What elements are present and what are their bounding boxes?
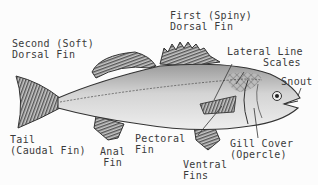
label-line: Anal: [100, 146, 125, 157]
label-line: Dorsal Fin: [170, 21, 252, 32]
label-anal-fin: Anal Fin: [100, 146, 125, 168]
label-line: Dorsal Fin: [12, 49, 94, 60]
label-second-dorsal-fin: Second (Soft) Dorsal Fin: [12, 38, 94, 60]
label-line: Second (Soft): [12, 38, 94, 49]
label-line: Fins: [183, 170, 227, 181]
label-line: Gill Cover: [230, 138, 293, 149]
label-line: Fin: [100, 157, 125, 168]
label-first-dorsal-fin: First (Spiny) Dorsal Fin: [170, 10, 252, 32]
label-ventral-fins: Ventral Fins: [183, 159, 227, 181]
label-line: Pectoral: [135, 133, 186, 144]
fish-anatomy-diagram: First (Spiny) Dorsal Fin Second (Soft) D…: [0, 0, 318, 185]
label-line: Fin: [135, 144, 186, 155]
label-line: First (Spiny): [170, 10, 252, 21]
label-lateral-line-scales: Lateral Line Scales: [227, 46, 303, 68]
label-snout: Snout: [281, 76, 313, 87]
first-dorsal-fin: [160, 42, 220, 66]
label-line: Scales: [227, 57, 303, 68]
tail-fin: [16, 76, 60, 128]
label-line: Lateral Line: [227, 46, 303, 57]
label-line: (Caudal Fin): [10, 145, 86, 156]
label-tail: Tail (Caudal Fin): [10, 134, 86, 156]
label-line: Ventral: [183, 159, 227, 170]
label-pectoral-fin: Pectoral Fin: [135, 133, 186, 155]
label-gill-cover: Gill Cover (Opercle): [230, 138, 293, 160]
label-line: (Opercle): [230, 149, 293, 160]
label-line: Tail: [10, 134, 86, 145]
